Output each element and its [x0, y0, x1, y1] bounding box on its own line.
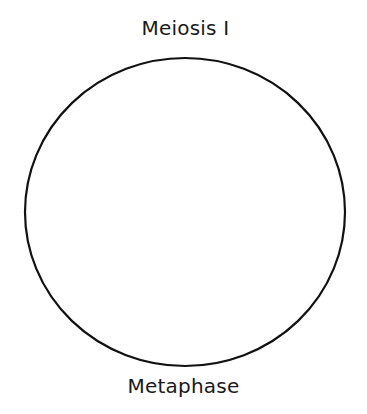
cell-circle	[25, 58, 345, 366]
cell-outline	[0, 0, 367, 414]
phase-caption: Metaphase	[0, 374, 367, 398]
